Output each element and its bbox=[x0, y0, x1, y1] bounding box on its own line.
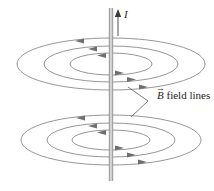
b-field-leader-lines bbox=[128, 87, 148, 117]
leader-line-lower bbox=[131, 101, 148, 117]
b-field-label: →B field lines bbox=[157, 90, 210, 101]
field-arrow-front-middle bbox=[127, 153, 136, 158]
current-direction-arrow bbox=[115, 9, 121, 36]
wire-body bbox=[109, 8, 112, 181]
current-arrow-head bbox=[115, 9, 121, 17]
current-carrying-wire bbox=[109, 8, 112, 181]
b-vector-symbol: →B bbox=[157, 90, 164, 101]
current-label: I bbox=[124, 9, 128, 20]
b-field-label-text: field lines bbox=[166, 89, 210, 101]
magnetic-field-diagram: I →B field lines bbox=[0, 0, 214, 191]
vector-arrow-icon: → bbox=[156, 84, 164, 93]
